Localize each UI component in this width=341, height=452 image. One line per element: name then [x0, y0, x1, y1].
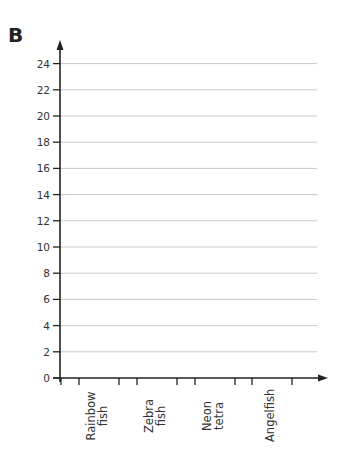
- y-tick-label: 20: [37, 110, 50, 122]
- x-category-label: Zebrafish: [143, 390, 167, 442]
- x-category-label: Neontetra: [201, 390, 225, 442]
- y-tick-label: 10: [37, 241, 50, 253]
- x-category-label: Angelfish: [264, 390, 276, 442]
- y-tick-label: 16: [37, 162, 51, 174]
- y-tick-label: 22: [37, 84, 50, 96]
- y-tick-label: 8: [43, 267, 50, 279]
- x-axis-arrow-icon: [318, 375, 328, 382]
- x-category-label-line: fish: [97, 390, 109, 442]
- y-tick-label: 24: [37, 58, 51, 70]
- x-category-label: Rainbowfish: [85, 390, 109, 442]
- y-tick-label: 0: [43, 372, 50, 384]
- y-tick-label: 4: [43, 320, 50, 332]
- y-tick-label: 12: [37, 215, 50, 227]
- bar-chart-template: 024681012141618202224: [0, 0, 341, 452]
- x-category-label-line: Angelfish: [264, 390, 276, 442]
- y-tick-label: 2: [43, 346, 50, 358]
- y-tick-label: 18: [37, 136, 50, 148]
- y-tick-label: 14: [37, 189, 51, 201]
- x-category-label-line: fish: [155, 390, 167, 442]
- y-tick-label: 6: [43, 293, 50, 305]
- x-category-label-line: tetra: [213, 390, 225, 442]
- y-axis-arrow-icon: [57, 40, 64, 50]
